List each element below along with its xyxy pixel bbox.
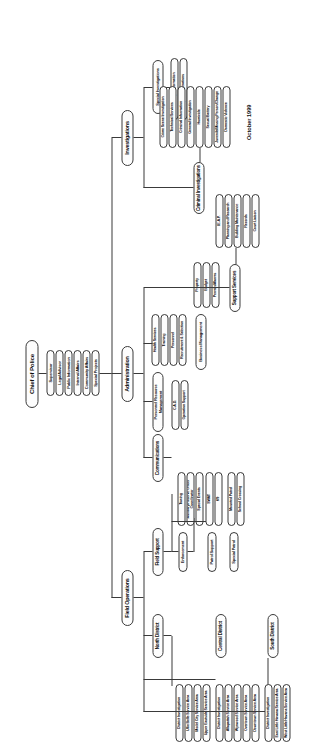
node-legal-advisor: Legal Advisor — [56, 350, 64, 396]
node-label: Patrol Support — [210, 534, 214, 570]
node-enforcement: Enforcement — [179, 532, 188, 572]
node-label: Overtown Service Area — [245, 686, 249, 740]
connector-to-patrol-support — [172, 521, 208, 522]
node-mounted-patrol: Mounted Patrol — [228, 472, 236, 526]
connector-field-support-spine — [172, 494, 173, 552]
node-homicide: Homicide — [196, 86, 204, 148]
node-field-support: Field Support — [153, 528, 164, 576]
node-label: Field Support — [156, 530, 161, 574]
node-technical-services: Technical Services — [169, 86, 177, 148]
node-label: Investigations — [125, 112, 131, 164]
node-allapattah-service-area: Allapattah Service Area — [225, 684, 233, 742]
node-label: Central District — [219, 616, 224, 656]
node-criminal-investigations: Criminal Investigations — [194, 162, 205, 214]
node-building-maintenance: Building Maintenance — [234, 194, 242, 248]
node-recruitment-and-selection: Recruitment & Selection — [179, 314, 187, 366]
node-label: Administration — [125, 348, 131, 400]
node-label: District Investigation — [178, 686, 182, 740]
node-label: Planning and Research — [227, 196, 231, 246]
node-label: Court Liaison — [254, 196, 258, 246]
node-label: Downtown Service Area — [254, 686, 258, 740]
connector-communications-down — [164, 457, 172, 458]
node-label: Recruitment & Selection — [181, 316, 185, 364]
node-label: Crime Scene Investigation — [162, 88, 166, 146]
connector-support-services-spine — [236, 248, 237, 264]
chart-datestamp: October 1999 — [246, 105, 252, 140]
node-health-services: Health Services — [152, 314, 160, 366]
node-label: School Crossing — [239, 474, 243, 524]
node-patrol-support: Patrol Support — [208, 532, 217, 572]
node-planning-and-research: Planning and Research — [225, 194, 233, 248]
node-business-management: Business Management — [196, 314, 207, 370]
connector-to-enforcement — [172, 551, 179, 552]
node-administration: Administration — [122, 346, 134, 402]
node-label: Wynwood Service Area — [236, 686, 240, 740]
node-label: Public Information — [66, 352, 70, 394]
node-label: Criminal Investigations — [197, 164, 202, 212]
node-label: Support Services — [233, 266, 238, 310]
node-records: Records — [243, 194, 251, 248]
node-special-projects: Special Projects — [92, 350, 100, 396]
node-label: Community Affairs — [84, 352, 88, 394]
node-label: North District — [156, 616, 161, 656]
node-label: District Investigation — [267, 686, 271, 740]
connector-investigations-spine — [144, 88, 145, 188]
node-north-district-investigation: District Investigation — [176, 684, 184, 742]
node-property: Property — [194, 262, 202, 308]
connector-to-business-management — [144, 343, 153, 344]
node-label: Juvenile/Missing Person/Change — [216, 88, 220, 146]
node-label: Domestic Violence — [225, 88, 229, 146]
node-label: Property — [196, 264, 200, 306]
node-ieap: I.E.A.P. — [216, 194, 224, 248]
node-public-information: Public Information — [65, 350, 73, 396]
node-label: Enforcement — [181, 534, 185, 570]
node-label: Field Operations — [125, 572, 131, 624]
node-label: Business Management — [199, 316, 203, 368]
node-label: Homicide — [198, 88, 202, 146]
node-label: Internal Affairs — [75, 352, 79, 394]
connector-chief-staff-spine — [39, 373, 47, 374]
connector-field-operations-down — [134, 597, 144, 598]
connector-administration-spine — [144, 288, 145, 458]
node-label: Ullie Belle Service Area — [187, 686, 191, 740]
connector-to-administration — [112, 373, 122, 374]
node-sexual-battery: Sexual Battery — [205, 86, 213, 148]
node-label: East Little Havana Service Area — [276, 686, 280, 740]
node-east-little-havana-service-area: East Little Havana Service Area — [274, 684, 282, 742]
node-central-district-investigation: District Investigation — [216, 684, 224, 742]
node-crime-scene-investigation: Crime Scene Investigation — [160, 86, 168, 148]
node-ullie-belle-service-area: Ullie Belle Service Area — [185, 684, 193, 742]
node-label: South District — [271, 616, 276, 656]
connector-to-field-operations — [112, 597, 122, 598]
node-community-affairs: Community Affairs — [83, 350, 91, 396]
node-label: Personnel — [172, 316, 176, 364]
node-label: C.A.D. — [174, 382, 178, 428]
connector-to-central-district — [144, 679, 216, 680]
org-chart-stage: Chief of Police Supervisor Legal Advisor… — [20, 0, 282, 748]
node-label: Auxiliary/Reserve Officer Coordinator — [187, 474, 195, 524]
connector-north-district-down — [164, 635, 172, 636]
node-south-district: South District — [268, 614, 279, 658]
connector-to-support-services — [144, 287, 230, 288]
node-overtown-service-area: Overtown Service Area — [243, 684, 251, 742]
node-supervisor: Supervisor — [47, 350, 55, 396]
node-special-patrol: Special Patrol — [230, 532, 239, 572]
node-label: Budget — [205, 264, 209, 306]
node-communications: Communications — [153, 434, 164, 482]
connector-to-communications — [144, 457, 153, 458]
node-label: General Investigation — [189, 88, 193, 146]
node-label: Permits/Alarms — [214, 264, 218, 306]
node-label: Model City Service Area — [196, 686, 200, 740]
node-label: I.E.A.P. — [218, 196, 222, 246]
connector-to-north-district — [144, 635, 153, 636]
connector-to-field-support — [144, 551, 153, 552]
connector-division-spine — [112, 138, 113, 598]
connector-field-operations-spine — [144, 552, 145, 712]
node-field-operations: Field Operations — [122, 570, 134, 626]
node-auxiliary-reserve-officer-coordinator: Auxiliary/Reserve Officer Coordinator — [187, 472, 195, 526]
org-chart-canvas: Chief of Police Supervisor Legal Advisor… — [20, 0, 282, 748]
node-cad: C.A.D. — [172, 380, 180, 430]
node-operation-support: Operation Support — [181, 380, 189, 430]
connector-field-support-down — [164, 551, 172, 552]
node-personnel: Personnel — [170, 314, 178, 366]
